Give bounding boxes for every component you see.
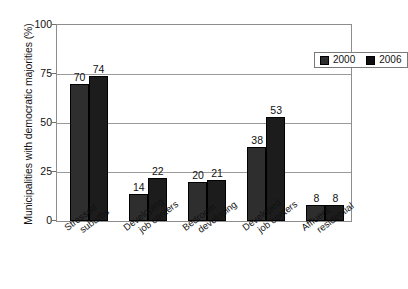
legend-label-2006: 2006 xyxy=(379,55,401,65)
legend-item-2000: 2000 xyxy=(320,55,355,65)
x-axis-labels: StressedsuburbsDevelopingjob centersBedr… xyxy=(56,224,352,289)
y-axis-tick-label-0: 0 xyxy=(12,215,52,225)
legend-swatch-icon-2006 xyxy=(366,56,375,65)
y-axis-tick-label-50: 50 xyxy=(12,117,52,127)
legend-swatch-icon-2000 xyxy=(320,56,329,65)
y-axis-tick-label-100: 100 xyxy=(12,19,52,29)
legend-item-2006: 2006 xyxy=(366,55,401,65)
bar-value-label-2006-4: 53 xyxy=(261,105,291,116)
bar-value-label-2006-3: 21 xyxy=(202,168,232,179)
y-axis-tick-label-25: 25 xyxy=(12,166,52,176)
y-axis-tick-label-75: 75 xyxy=(12,68,52,78)
bar-2000-1[interactable] xyxy=(70,84,89,221)
legend-label-2000: 2000 xyxy=(333,55,355,65)
legend: 2000 2006 xyxy=(314,52,408,68)
bar-value-label-2006-1: 74 xyxy=(84,64,114,75)
bar-value-label-2006-2: 22 xyxy=(143,166,173,177)
bar-group: 7074 xyxy=(70,25,108,221)
